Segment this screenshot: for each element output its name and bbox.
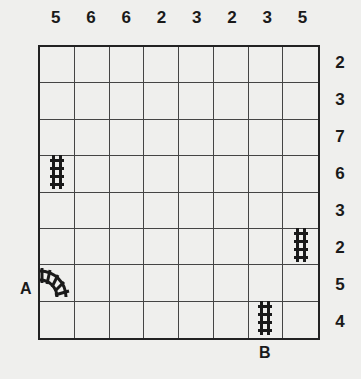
grid-cell[interactable] (179, 120, 214, 156)
grid-cell[interactable] (144, 265, 179, 301)
row-clues: 2 3 7 6 3 2 5 4 (328, 45, 352, 340)
grid-cell[interactable] (283, 156, 318, 192)
column-clue: 5 (285, 8, 320, 28)
grid-cell[interactable] (283, 229, 318, 265)
grid-cell[interactable] (249, 193, 284, 229)
start-label-a: A (20, 280, 32, 298)
grid-cell[interactable] (283, 302, 318, 338)
grid-cell[interactable] (249, 156, 284, 192)
grid-cell[interactable] (75, 120, 110, 156)
grid-cell[interactable] (144, 83, 179, 119)
grid-cell[interactable] (214, 120, 249, 156)
grid-cell[interactable] (40, 229, 75, 265)
grid-cell[interactable] (75, 302, 110, 338)
grid-cell[interactable] (214, 265, 249, 301)
grid-cell[interactable] (40, 302, 75, 338)
grid-cell[interactable] (179, 83, 214, 119)
vertical-track-icon (258, 301, 272, 339)
grid-cell[interactable] (214, 229, 249, 265)
grid-cell[interactable] (110, 193, 145, 229)
grid-cell[interactable] (144, 193, 179, 229)
column-clue: 6 (73, 8, 108, 28)
curved-track-icon (40, 267, 70, 301)
grid-cell[interactable] (283, 265, 318, 301)
grid-cell[interactable] (179, 156, 214, 192)
grid-cell[interactable] (283, 47, 318, 83)
grid-cell[interactable] (249, 229, 284, 265)
column-clue: 5 (38, 8, 73, 28)
grid-cell[interactable] (110, 265, 145, 301)
grid-cell[interactable] (214, 193, 249, 229)
grid-cell[interactable] (214, 83, 249, 119)
row-clue: 4 (328, 303, 352, 340)
grid-cell[interactable] (75, 83, 110, 119)
grid-cell[interactable] (75, 229, 110, 265)
grid-cell[interactable] (110, 156, 145, 192)
grid-cell[interactable] (144, 47, 179, 83)
column-clue: 2 (144, 8, 179, 28)
row-clue: 5 (328, 266, 352, 303)
row-clue: 3 (328, 82, 352, 119)
row-clue: 7 (328, 119, 352, 156)
grid-cell[interactable] (249, 302, 284, 338)
grid-cell[interactable] (110, 47, 145, 83)
grid-cell[interactable] (283, 120, 318, 156)
row-clue: 3 (328, 193, 352, 230)
row-clue: 6 (328, 156, 352, 193)
grid-cell[interactable] (179, 302, 214, 338)
row-clue: 2 (328, 229, 352, 266)
grid-cell[interactable] (144, 229, 179, 265)
grid-cell[interactable] (144, 156, 179, 192)
grid-cell[interactable] (110, 83, 145, 119)
puzzle-grid (38, 45, 320, 340)
vertical-track-icon (50, 155, 64, 193)
grid-cell[interactable] (214, 47, 249, 83)
grid-cell[interactable] (110, 302, 145, 338)
grid-cell[interactable] (179, 229, 214, 265)
grid-cell[interactable] (179, 265, 214, 301)
grid-cell[interactable] (179, 47, 214, 83)
grid-cell[interactable] (249, 47, 284, 83)
vertical-track-icon (294, 228, 308, 266)
end-label-b: B (259, 344, 271, 362)
grid-cell[interactable] (179, 193, 214, 229)
grid-cell[interactable] (144, 120, 179, 156)
grid-cell[interactable] (40, 83, 75, 119)
grid-cell[interactable] (214, 302, 249, 338)
column-clues: 5 6 6 2 3 2 3 5 (38, 8, 320, 28)
grid-cell[interactable] (283, 83, 318, 119)
grid-cell[interactable] (75, 265, 110, 301)
grid-cell[interactable] (249, 265, 284, 301)
grid-cell[interactable] (40, 47, 75, 83)
grid-cell[interactable] (110, 120, 145, 156)
grid-cell[interactable] (283, 193, 318, 229)
grid-cell[interactable] (40, 193, 75, 229)
row-clue: 2 (328, 45, 352, 82)
grid-cell[interactable] (214, 156, 249, 192)
grid-cell[interactable] (249, 120, 284, 156)
column-clue: 2 (214, 8, 249, 28)
grid-cell[interactable] (40, 265, 75, 301)
grid-cell[interactable] (75, 156, 110, 192)
grid-cell[interactable] (144, 302, 179, 338)
column-clue: 6 (109, 8, 144, 28)
grid-cell[interactable] (40, 120, 75, 156)
grid-cell[interactable] (75, 47, 110, 83)
grid-cell[interactable] (75, 193, 110, 229)
grid-cell[interactable] (110, 229, 145, 265)
grid-cell[interactable] (40, 156, 75, 192)
grid-cell[interactable] (249, 83, 284, 119)
column-clue: 3 (250, 8, 285, 28)
column-clue: 3 (179, 8, 214, 28)
